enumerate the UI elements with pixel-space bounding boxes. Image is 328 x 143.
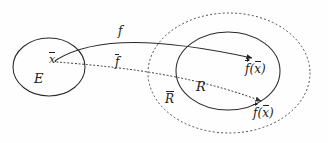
solid-map-arrow <box>56 43 252 61</box>
x-bar-accent-group: x <box>262 107 269 119</box>
overbar-mark <box>166 91 174 92</box>
label-image-dotted-arg: x <box>262 107 269 119</box>
label-map-f-dotted: f <box>115 56 119 68</box>
overbar-mark <box>49 52 55 53</box>
label-map-f-dotted-text: f <box>115 56 119 68</box>
math-diagram: E x f f R R f ( x ) f <box>0 0 328 143</box>
label-set-E-text: E <box>34 71 44 86</box>
label-set-R: R <box>196 80 206 93</box>
label-map-f-solid-text: f <box>118 24 122 38</box>
label-image-solid-close: ) <box>261 62 266 76</box>
f-bar-accent-group: f <box>115 56 119 68</box>
vector-arrow-mark <box>245 60 249 61</box>
closure-set-ellipse <box>148 13 310 133</box>
label-image-dotted-close: ) <box>269 106 274 120</box>
label-image-dotted: f ( x ) <box>253 107 274 119</box>
label-point-x-bar: x <box>49 54 55 65</box>
label-set-R-text: R <box>196 79 206 94</box>
x-bar-accent-group: x <box>254 63 261 75</box>
overbar-mark <box>255 61 261 62</box>
R-bar-accent-group: R <box>165 93 174 105</box>
vector-arrow-mark <box>253 104 257 105</box>
f-vector-accent-group: f <box>253 107 257 119</box>
label-set-E: E <box>34 72 44 85</box>
label-image-solid-fn: f <box>245 63 249 75</box>
label-set-R-closure: R <box>165 93 174 105</box>
dotted-map-arrow <box>57 62 261 101</box>
label-image-solid: f ( x ) <box>245 63 266 75</box>
label-image-dotted-fn: f <box>253 107 257 119</box>
overbar-mark <box>263 105 269 106</box>
overbar-mark <box>115 54 119 55</box>
f-vector-accent-group: f <box>245 63 249 75</box>
label-image-solid-arg: x <box>254 63 261 75</box>
x-bar-accent-group: x <box>49 54 55 65</box>
label-point-x-text: x <box>49 54 55 65</box>
label-map-f-solid: f <box>118 25 122 37</box>
domain-set-ellipse <box>13 38 85 96</box>
label-set-R-closure-text: R <box>165 93 174 105</box>
diagram-canvas <box>0 0 328 143</box>
